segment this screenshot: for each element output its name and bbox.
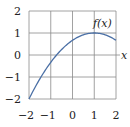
y-tick-label: 0 — [14, 49, 21, 62]
x-tick-label: 2 — [113, 109, 120, 122]
x-tick-label: −1 — [40, 109, 56, 122]
x-axis-label: x — [121, 49, 128, 62]
y-tick-label: −2 — [5, 93, 21, 106]
function-plot: −2−1012 −2−1012 f(x) x — [0, 0, 130, 127]
curve-label: f(x) — [92, 17, 112, 30]
x-tick-label: −2 — [18, 109, 34, 122]
x-tick-label: 1 — [91, 109, 98, 122]
x-tick-label: 0 — [69, 109, 76, 122]
y-tick-label: 2 — [14, 5, 21, 18]
y-tick-label: 1 — [14, 27, 21, 40]
y-tick-label: −1 — [5, 71, 21, 84]
y-tick-labels: −2−1012 — [5, 5, 21, 106]
x-tick-labels: −2−1012 — [18, 109, 120, 122]
